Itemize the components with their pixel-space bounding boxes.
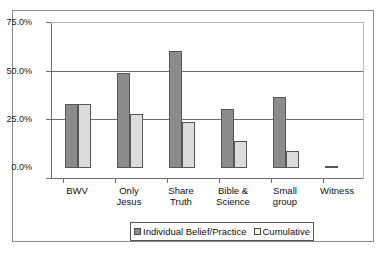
bar-group-share-truth <box>169 22 195 168</box>
bar-bwv-individual[interactable] <box>65 104 78 168</box>
x-axis-category-small-group-line-2: group <box>249 196 321 207</box>
bar-only-jesus-cumulative[interactable] <box>130 114 143 168</box>
gridline-25 <box>51 119 363 120</box>
bar-only-jesus-individual[interactable] <box>117 73 130 168</box>
legend-item-individual[interactable]: Individual Belief/Practice <box>134 226 247 237</box>
legend-swatch-icon-cumulative <box>254 228 261 235</box>
bar-bwv-cumulative[interactable] <box>78 104 91 168</box>
bar-group-small-group <box>273 22 299 168</box>
bar-share-truth-individual[interactable] <box>169 51 182 168</box>
gridline-50 <box>51 71 363 72</box>
bar-share-truth-cumulative[interactable] <box>182 122 195 168</box>
legend-item-cumulative[interactable]: Cumulative <box>254 226 311 237</box>
bar-group-bible-science <box>221 22 247 168</box>
bar-group-only-jesus <box>117 22 143 168</box>
y-axis-label-25: 25.0% <box>0 115 32 124</box>
y-axis-label-75: 75.0% <box>0 18 32 27</box>
x-axis-tick-4 <box>271 179 272 183</box>
legend-swatch-icon-individual <box>134 228 141 235</box>
x-axis-tick-0 <box>63 179 64 183</box>
plot-right-border <box>363 22 364 179</box>
x-axis-category-witness-line-1: Witness <box>301 185 373 196</box>
chart-legend: Individual Belief/Practice Cumulative <box>130 222 314 241</box>
legend-label-cumulative: Cumulative <box>263 226 311 237</box>
x-axis-line <box>51 178 364 179</box>
legend-label-individual: Individual Belief/Practice <box>143 226 247 237</box>
bar-group-witness <box>325 22 351 168</box>
bar-group-bwv <box>65 22 91 168</box>
x-axis-tick-2 <box>167 179 168 183</box>
plot-area <box>51 22 363 168</box>
y-axis-label-50: 50.0% <box>0 67 32 76</box>
bar-witness-individual[interactable] <box>325 166 338 168</box>
y-axis-label-0: 0.0% <box>0 163 32 172</box>
bar-bible-science-cumulative[interactable] <box>234 141 247 168</box>
bar-small-group-individual[interactable] <box>273 97 286 168</box>
bar-small-group-cumulative[interactable] <box>286 151 299 168</box>
x-axis-tick-3 <box>219 179 220 183</box>
x-axis-tick-5 <box>323 179 324 183</box>
chart-frame: 75.0% 50.0% 25.0% 0.0% <box>12 10 374 242</box>
x-axis-tick-1 <box>115 179 116 183</box>
gridline-75 <box>51 22 363 23</box>
bar-bible-science-individual[interactable] <box>221 109 234 168</box>
x-axis-category-witness: Witness <box>301 185 373 196</box>
